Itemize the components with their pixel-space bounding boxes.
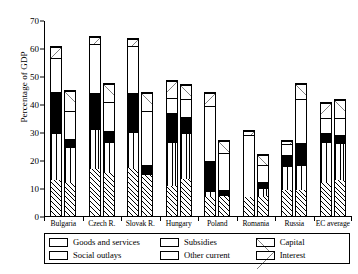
x-axis-label: Czech R. xyxy=(83,219,122,228)
bar-segment-other-current xyxy=(90,44,100,92)
bar-segment-interest xyxy=(321,103,331,118)
stacked-bar[interactable] xyxy=(127,38,139,217)
x-axis-labels: BulgariaCzech R.Slovak R.HungaryPolandRo… xyxy=(44,219,352,228)
stacked-bar[interactable] xyxy=(89,36,101,217)
bar-group xyxy=(198,21,237,217)
y-tick-label: 20 xyxy=(30,157,39,166)
bar-segment-capital xyxy=(181,85,191,99)
legend-label: Interest xyxy=(280,250,306,260)
bar-segment-social-outlays xyxy=(90,129,100,169)
y-tick-label: 0 xyxy=(35,213,40,222)
bar-segment-other-current xyxy=(51,58,61,91)
bar-segment-social-outlays xyxy=(335,143,345,180)
bar-segment-other-current xyxy=(321,118,331,133)
legend-item[interactable]: Goods and services xyxy=(49,237,158,247)
bar-segment-subsidies xyxy=(321,133,331,141)
y-tick-label: 70 xyxy=(30,17,39,26)
bar-segment-other-current xyxy=(335,118,345,135)
bar-group xyxy=(121,21,160,217)
legend-item[interactable]: Subsidies xyxy=(160,237,254,247)
bar-segment-interest xyxy=(244,131,254,135)
bar-segment-goods-and-services xyxy=(244,197,254,216)
stacked-bar[interactable] xyxy=(204,92,216,217)
bar-segment-subsidies xyxy=(90,93,100,129)
bar-segment-goods-and-services xyxy=(181,179,191,216)
bar-segment-subsidies xyxy=(128,93,138,132)
bar-segment-subsidies xyxy=(335,135,345,143)
stacked-bar[interactable] xyxy=(295,83,307,217)
stacked-bar[interactable] xyxy=(166,80,178,217)
bar-segment-interest xyxy=(51,47,61,58)
stacked-bar[interactable] xyxy=(320,102,332,217)
legend-label: Subsidies xyxy=(184,237,217,247)
y-axis-ticks: 706050403020100 xyxy=(22,14,44,224)
bar-segment-subsidies xyxy=(104,131,114,142)
stacked-bar[interactable] xyxy=(281,140,293,217)
bar-segment-goods-and-services xyxy=(104,173,114,216)
legend-swatch-solid-black-icon xyxy=(160,238,179,247)
legend-swatch-diagonal-hatch-forward-icon xyxy=(49,238,68,247)
bar-group xyxy=(275,21,314,217)
bar-segment-interest xyxy=(205,93,215,105)
bar-segment-other-current xyxy=(104,102,114,131)
bar-segment-social-outlays xyxy=(181,133,191,179)
bar-groups xyxy=(44,21,352,217)
bar-segment-subsidies xyxy=(258,182,268,187)
bar-segment-social-outlays xyxy=(65,147,75,183)
legend-swatch-diagonal-backslash-icon xyxy=(256,238,275,247)
x-axis-label: Hungary xyxy=(160,219,199,228)
legend-item[interactable]: Interest xyxy=(256,250,345,260)
stacked-bar[interactable] xyxy=(334,99,346,217)
stacked-bar[interactable] xyxy=(180,84,192,217)
bar-segment-other-current xyxy=(244,135,254,197)
bar-segment-goods-and-services xyxy=(90,169,100,216)
bar-segment-interest xyxy=(90,37,100,44)
y-tick-label: 50 xyxy=(30,73,39,82)
bar-segment-capital xyxy=(296,84,306,99)
bar-segment-goods-and-services xyxy=(167,186,177,216)
bar-segment-other-current xyxy=(65,111,75,139)
bar-segment-subsidies xyxy=(219,190,229,195)
bar-segment-other-current xyxy=(181,99,191,117)
legend-item[interactable]: Social outlays xyxy=(49,250,158,260)
bar-segment-social-outlays xyxy=(205,191,215,197)
bar-segment-capital xyxy=(219,141,229,153)
legend-label: Capital xyxy=(280,237,305,247)
bar-segment-interest xyxy=(282,141,292,144)
chart-legend: Goods and servicesSubsidiesCapitalSocial… xyxy=(44,233,350,264)
bar-segment-subsidies xyxy=(296,143,306,165)
bar-segment-social-outlays xyxy=(167,142,177,187)
bar-segment-other-current xyxy=(258,165,268,183)
stacked-bar[interactable] xyxy=(141,92,153,217)
legend-item[interactable]: Other current xyxy=(160,250,254,260)
stacked-bar[interactable] xyxy=(64,90,76,217)
bar-segment-subsidies xyxy=(282,155,292,166)
legend-label: Goods and services xyxy=(73,237,140,247)
x-axis-label: Poland xyxy=(198,219,237,228)
bar-segment-goods-and-services xyxy=(142,175,152,216)
bar-segment-other-current xyxy=(296,99,306,143)
bar-segment-goods-and-services xyxy=(321,182,331,216)
legend-item[interactable]: Capital xyxy=(256,237,345,247)
bar-segment-social-outlays xyxy=(104,142,114,174)
y-tick-label: 30 xyxy=(30,129,39,138)
bar-segment-goods-and-services xyxy=(205,197,215,216)
bar-segment-other-current xyxy=(142,111,152,165)
bar-segment-other-current xyxy=(167,98,177,113)
legend-swatch-vertical-lines-icon xyxy=(49,251,68,260)
stacked-bar[interactable] xyxy=(218,140,230,217)
stacked-bar[interactable] xyxy=(103,83,115,217)
x-axis-label: Romania xyxy=(237,219,276,228)
y-tick-label: 40 xyxy=(30,101,39,110)
stacked-bar[interactable] xyxy=(243,130,255,217)
bar-segment-other-current xyxy=(128,46,138,93)
bar-segment-other-current xyxy=(205,106,215,161)
bar-segment-subsidies xyxy=(142,165,152,175)
stacked-bar[interactable] xyxy=(50,46,62,217)
bar-segment-goods-and-services xyxy=(51,180,61,216)
bar-group xyxy=(44,21,83,217)
bar-segment-goods-and-services xyxy=(335,180,345,216)
bar-group xyxy=(314,21,353,217)
bar-segment-goods-and-services xyxy=(296,190,306,216)
stacked-bar[interactable] xyxy=(257,154,269,217)
